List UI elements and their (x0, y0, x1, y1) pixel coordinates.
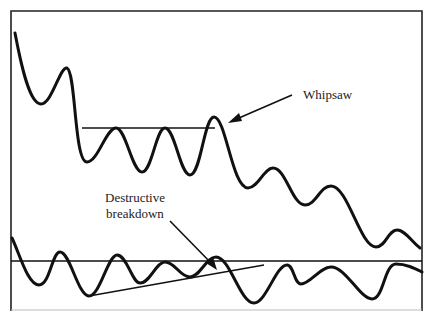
whipsaw-diagram: Whipsaw Destructive breakdown (0, 0, 429, 319)
destructive-label-line1: Destructive (105, 190, 165, 205)
whipsaw-label: Whipsaw (303, 87, 353, 102)
price-curve (15, 33, 420, 248)
breakdown-arrow (170, 221, 213, 265)
oscillator-curve (12, 238, 422, 303)
whipsaw-arrowhead-icon (228, 113, 242, 123)
destructive-label-line2: breakdown (106, 206, 164, 221)
chart-frame (11, 11, 422, 311)
whipsaw-arrow (232, 95, 292, 121)
